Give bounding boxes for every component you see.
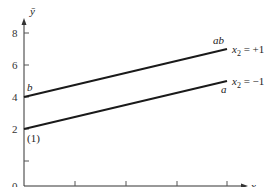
series-label-x2-minus1: x2 = −1 [231,75,264,90]
point-label-a: a [221,83,227,95]
svg-text:0: 0 [12,180,18,187]
svg-text:4: 4 [12,91,18,103]
series-label-x2-plus1: x2 = +1 [231,43,264,58]
series-line-x2-minus1 [24,81,227,129]
svg-text:6: 6 [12,59,18,71]
point-label-ab: ab [213,34,225,46]
y-axis-label: ȳ [29,5,36,17]
interaction-plot: 0 2 4 6 8 ȳ x1 b ab (1) a x2 = +1 x2 = −… [0,0,278,187]
y-tick-labels: 0 2 4 6 8 [12,27,18,187]
x-ticks [75,181,227,186]
x-axis-label: x1 [250,180,260,187]
series-line-x2-plus1 [24,49,227,97]
y-axis-arrow-icon [22,18,27,25]
svg-text:2: 2 [12,123,18,135]
point-label-1: (1) [27,132,40,145]
x-axis-arrow-icon [241,184,248,188]
svg-text:8: 8 [12,27,18,39]
point-label-b: b [27,81,33,93]
